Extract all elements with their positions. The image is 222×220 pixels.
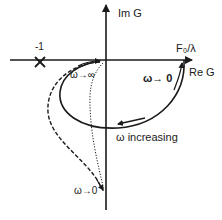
critical-point-label: -1 bbox=[35, 42, 44, 52]
real-intercept-label: F₀/λ bbox=[176, 43, 196, 54]
omega-to-infinity-label: ω→∞ bbox=[70, 70, 95, 80]
lower-omega-to-zero-label: ω→0 bbox=[74, 186, 97, 196]
omega-increasing-label: ω increasing bbox=[116, 132, 178, 143]
lower-omega-zero-arrow bbox=[97, 180, 103, 190]
nyquist-diagram bbox=[0, 0, 222, 220]
critical-point-x-icon bbox=[35, 57, 45, 67]
omega-to-zero-label: ω→ 0 bbox=[143, 73, 172, 84]
imaginary-axis-label: Im G bbox=[118, 8, 142, 19]
real-axis-label: Re G bbox=[189, 67, 215, 78]
